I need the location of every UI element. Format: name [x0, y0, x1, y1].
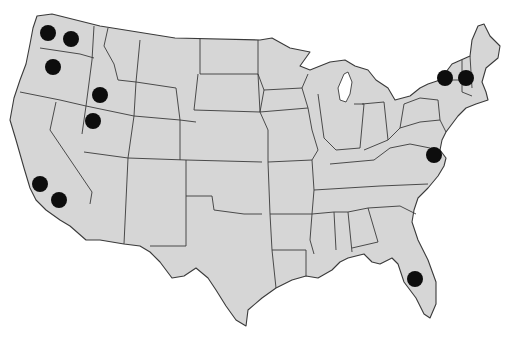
marker-va	[426, 147, 442, 163]
marker-wa-east	[63, 31, 79, 47]
marker-fl	[407, 271, 423, 287]
marker-id	[92, 87, 108, 103]
marker-nh-vt	[458, 70, 474, 86]
marker-ny	[437, 70, 453, 86]
marker-ca-north	[32, 176, 48, 192]
us-map	[0, 0, 520, 339]
us-landmass	[10, 14, 500, 326]
marker-nv-ut	[85, 113, 101, 129]
marker-or	[45, 59, 61, 75]
marker-ca-south	[51, 192, 67, 208]
marker-wa-west	[40, 25, 56, 41]
